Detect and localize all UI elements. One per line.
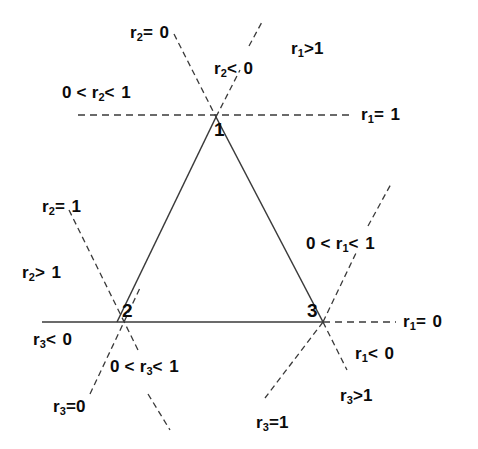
- label-r1-eq-1-var: r: [361, 105, 368, 124]
- label-r1-gt-1-rel: >1: [304, 39, 324, 58]
- label-r3-eq-1: r3=1: [256, 414, 289, 433]
- label-r1-eq-1: r1= 1: [361, 106, 401, 125]
- label-r2-lt-0: r2< 0: [214, 60, 254, 79]
- line-r2-eq-0-lower: [323, 322, 347, 370]
- label-r1-lt-0-rel: < 0: [368, 344, 395, 363]
- triangle-edges: [117, 117, 323, 322]
- label-r2-eq-0-var: r: [130, 23, 137, 42]
- vertex-label-1: 1: [214, 120, 225, 139]
- label-r1-between: 0 < r1< 1: [306, 235, 376, 254]
- triangle-edge-1-3: [216, 117, 323, 322]
- label-r3-eq-0: r3=0: [53, 398, 86, 417]
- line-r1-between-lower-arm: [323, 253, 356, 322]
- label-r3-between-lead: 0 <: [110, 357, 140, 376]
- label-r2-eq-0-rel: = 0: [143, 23, 170, 42]
- label-r3-eq-1-rel: =1: [269, 413, 289, 432]
- label-r2-eq-1-var: r: [42, 197, 49, 216]
- label-r2-lt-0-var: r: [214, 59, 221, 78]
- label-r3-gt-1: r3>1: [340, 387, 373, 406]
- label-r1-lt-0-var: r: [355, 344, 362, 363]
- label-r2-gt-1: r2> 1: [22, 264, 62, 283]
- line-r2-eq-0: [174, 34, 216, 117]
- line-r2-eq-1: [69, 210, 138, 350]
- label-r2-lt-0-rel: < 0: [227, 59, 254, 78]
- label-r1-eq-0: r1= 0: [403, 313, 443, 332]
- label-r3-gt-1-var: r: [340, 386, 347, 405]
- label-r1-between-rel: < 1: [349, 234, 376, 253]
- label-r1-between-lead: 0 <: [306, 234, 336, 253]
- vertex-label-2: 2: [122, 301, 133, 320]
- label-r1-eq-0-rel: = 0: [416, 312, 443, 331]
- label-r2-gt-1-rel: > 1: [35, 263, 62, 282]
- label-r3-eq-0-rel: =0: [66, 397, 86, 416]
- label-r3-gt-1-rel: >1: [353, 386, 373, 405]
- line-r3-eq-1-far-upper-dash: [249, 22, 262, 46]
- label-r2-eq-0: r2= 0: [130, 24, 170, 43]
- vertex-label-3: 3: [307, 301, 318, 320]
- label-r3-between-rel: < 1: [153, 357, 180, 376]
- label-r2-eq-1: r2= 1: [42, 198, 82, 217]
- label-r2-between-rel: < 1: [105, 83, 132, 102]
- label-r3-between: 0 < r3< 1: [110, 358, 180, 377]
- label-r2-eq-1-rel: = 1: [55, 197, 82, 216]
- label-r2-between-lead: 0 <: [62, 83, 92, 102]
- label-r1-gt-1-var: r: [291, 39, 298, 58]
- label-r1-eq-0-var: r: [403, 312, 410, 331]
- label-r2-gt-1-var: r: [22, 263, 29, 282]
- label-r3-eq-1-var: r: [256, 413, 263, 432]
- barycentric-triangle-diagram: 1 2 3 r2= 0 r2< 0 r1>1 0 < r2< 1 r1= 1 r…: [0, 0, 478, 449]
- label-r3-lt-0: r3< 0: [33, 331, 73, 350]
- label-r1-gt-1: r1>1: [291, 40, 324, 59]
- label-r1-eq-1-rel: = 1: [374, 105, 401, 124]
- label-r3-lt-0-rel: < 0: [46, 330, 73, 349]
- line-r3-between-dash: [148, 394, 170, 430]
- label-r1-lt-0: r1< 0: [355, 345, 395, 364]
- label-r3-lt-0-var: r: [33, 330, 40, 349]
- line-r3-eq-1-lower-arm: [265, 322, 323, 398]
- line-r1-between-upper-dash: [368, 184, 391, 226]
- triangle-edge-1-2: [117, 117, 216, 322]
- label-r2-between: 0 < r2< 1: [62, 84, 132, 103]
- label-r3-eq-0-var: r: [53, 397, 60, 416]
